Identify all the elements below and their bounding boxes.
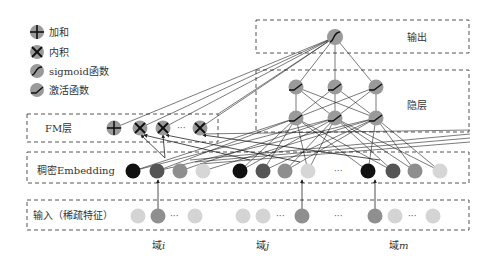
fm-inner-product-node: [193, 121, 208, 136]
legend: 加和 内积 sigmoid函数 激活函数: [30, 25, 109, 97]
embedding-nodes: ···: [126, 164, 448, 179]
hidden-layer-box: [256, 70, 469, 132]
input-node: [188, 209, 203, 224]
embedding-node: [150, 164, 165, 179]
fm-sum-node: [107, 121, 122, 136]
input-node-active: [295, 209, 310, 224]
legend-label-activation: 激活函数: [49, 84, 89, 96]
legend-label-inner-product: 内积: [49, 46, 69, 58]
hidden-node: [289, 111, 304, 126]
embedding-ellipsis: ···: [334, 166, 343, 176]
embedding-node: [408, 164, 423, 179]
fm-nodes: ···: [107, 121, 208, 136]
embedding-node: [233, 164, 248, 179]
embedding-node: [256, 164, 271, 179]
embedding-node: [278, 164, 293, 179]
field-label-i: 域i: [152, 239, 165, 251]
field-label-j: 域j: [256, 239, 269, 251]
fm-ellipsis: ···: [177, 123, 186, 133]
embedding-node: [173, 164, 188, 179]
hidden-node: [328, 111, 343, 126]
input-ellipsis: ···: [408, 211, 417, 221]
output-layer-box: [256, 20, 469, 53]
input-layer-label: 输入（稀疏特征）: [33, 209, 113, 221]
input-node: [131, 209, 146, 224]
legend-label-sum: 加和: [49, 27, 69, 38]
fm-inner-product-node: [133, 121, 148, 136]
embedding-layer-label: 稠密Embedding: [37, 164, 116, 176]
hidden-node: [369, 111, 384, 126]
sigmoid-icon: [30, 64, 44, 78]
input-ellipsis: ···: [170, 211, 179, 221]
hidden-layer-label: 隐层: [407, 100, 427, 111]
svg-text:域i: 域i: [152, 239, 165, 251]
svg-text:域j: 域j: [256, 239, 269, 251]
svg-text:域m: 域m: [389, 239, 408, 251]
input-node-active: [368, 209, 383, 224]
fm-layer-label: FM层: [45, 123, 72, 134]
hidden-node: [328, 80, 343, 95]
input-nodes: ··· ··· ··· ···: [131, 209, 441, 224]
hidden-node: [289, 80, 304, 95]
embedding-node: [433, 164, 448, 179]
input-ellipsis: ···: [334, 211, 343, 221]
embedding-node: [196, 164, 211, 179]
hidden-node: [369, 80, 384, 95]
output-sigmoid-node: [327, 29, 343, 45]
fm-inner-product-node: [156, 121, 171, 136]
cross-icon: [30, 45, 44, 59]
input-ellipsis: ···: [276, 211, 285, 221]
legend-label-sigmoid: sigmoid函数: [49, 65, 109, 77]
input-node: [236, 209, 251, 224]
edges-input-embedding: [158, 180, 375, 210]
input-node: [388, 209, 403, 224]
embedding-node: [126, 164, 141, 179]
input-node: [426, 209, 441, 224]
plus-icon: [30, 25, 44, 39]
embedding-node: [301, 164, 316, 179]
activation-icon: [30, 83, 44, 97]
embedding-node: [361, 164, 376, 179]
output-layer-label: 输出: [407, 31, 427, 43]
input-node-active: [151, 209, 166, 224]
deepfm-diagram: 加和 内积 sigmoid函数 激活函数 输出 隐层 FM层 稠密Embeddi…: [0, 0, 488, 262]
field-label-m: 域m: [389, 239, 408, 251]
embedding-node: [386, 164, 401, 179]
input-node: [256, 209, 271, 224]
